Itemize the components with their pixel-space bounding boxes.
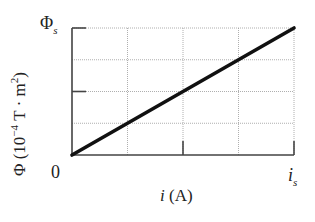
x-tick-i-s: is	[288, 166, 297, 188]
y-axis-label: Φ (10−4 T · m2)	[8, 72, 30, 176]
y-tick-phi-s: Φs	[40, 14, 57, 36]
x-tick-origin: 0	[51, 163, 60, 181]
x-axis-label: i (A)	[160, 187, 193, 204]
